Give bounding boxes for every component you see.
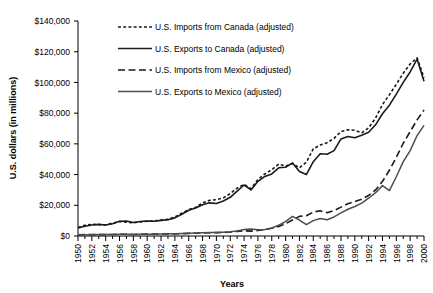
y-tick-label: $120,000 — [35, 47, 71, 57]
legend-label: U.S. Imports from Canada (adjusted) — [155, 22, 294, 32]
x-tick-label: 1988 — [336, 244, 346, 263]
x-tick-label: 1968 — [198, 244, 208, 263]
x-tick-label: 1952 — [87, 244, 97, 263]
line-chart: U.S. Imports from Canada (adjusted)U.S. … — [0, 0, 433, 293]
x-tick-label: 1976 — [253, 244, 263, 263]
y-tick-label: $0 — [61, 231, 71, 241]
x-tick-label: 1964 — [170, 244, 180, 263]
x-tick-label: 1994 — [378, 244, 388, 263]
x-tick-label: 1990 — [350, 244, 360, 263]
chart-container: U.S. Imports from Canada (adjusted)U.S. … — [0, 0, 433, 293]
x-tick-label: 1958 — [129, 244, 139, 263]
x-tick-label: 1998 — [405, 244, 415, 263]
x-tick-label: 1974 — [239, 244, 249, 263]
y-tick-label: $20,000 — [39, 200, 70, 210]
y-axis-title: U.S. dollars (in millions) — [8, 77, 18, 180]
y-tick-label: $140,000 — [35, 16, 71, 26]
x-tick-label: 1986 — [322, 244, 332, 263]
x-tick-label: 1978 — [267, 244, 277, 263]
x-tick-label: 1972 — [225, 244, 235, 263]
legend-label: U.S. Imports from Mexico (adjusted) — [155, 65, 291, 75]
x-tick-label: 1954 — [101, 244, 111, 263]
y-tick-label: $40,000 — [39, 170, 70, 180]
x-tick-label: 1956 — [115, 244, 125, 263]
x-tick-label: 1982 — [295, 244, 305, 263]
x-tick-label: 2000 — [419, 244, 429, 263]
x-tick-label: 1962 — [156, 244, 166, 263]
x-tick-label: 1960 — [142, 244, 152, 263]
y-tick-label: $100,000 — [35, 78, 71, 88]
x-tick-label: 1996 — [392, 244, 402, 263]
legend-label: U.S. Exports to Canada (adjusted) — [155, 44, 285, 54]
x-tick-label: 1966 — [184, 244, 194, 263]
x-axis-title: Years — [220, 279, 244, 289]
y-tick-label: $60,000 — [39, 139, 70, 149]
x-tick-label: 1992 — [364, 244, 374, 263]
x-tick-label: 1980 — [281, 244, 291, 263]
x-tick-label: 1970 — [212, 244, 222, 263]
legend-label: U.S. Exports to Mexico (adjusted) — [155, 87, 282, 97]
y-tick-label: $80,000 — [39, 108, 70, 118]
x-tick-label: 1984 — [308, 244, 318, 263]
x-tick-label: 1950 — [73, 244, 83, 263]
